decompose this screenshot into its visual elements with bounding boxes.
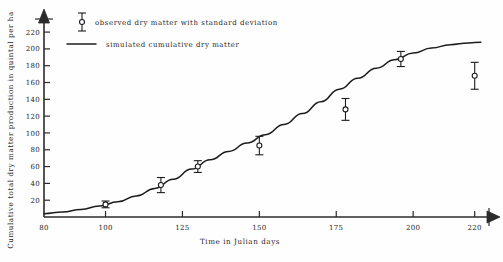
open-circle-marker-icon [257,143,262,148]
x-tick-label: 100 [98,224,112,232]
open-circle-marker-icon [195,164,200,169]
x-tick-label: 220 [468,224,482,232]
legend-entry-observed: observed dry matter with standard deviat… [78,13,278,31]
observed-datapoint [471,62,479,89]
y-axis-arrow-icon [39,9,50,23]
y-tick-label: 220 [26,29,40,37]
x-tick-label: 125 [175,224,189,232]
axes-group [35,9,500,226]
x-tick-label: 80 [39,224,49,232]
legend-group: observed dry matter with standard deviat… [67,13,278,49]
x-tick-label: 175 [329,224,343,232]
legend-label-observed: observed dry matter with standard deviat… [95,19,278,27]
observed-points-group [102,51,479,207]
open-circle-marker-icon [158,183,163,188]
x-tick-label: 150 [252,224,266,232]
open-circle-marker-icon [103,202,108,207]
y-tick-label: 160 [26,79,40,87]
y-tick-label: 180 [26,62,40,70]
open-circle-marker-icon [472,73,477,78]
figure-root: 2040608010012014016018020022080100125150… [0,0,503,262]
open-circle-marker-icon [343,107,348,112]
simulated-curve-path [44,42,481,213]
simulated-curve-group [44,42,481,213]
y-tick-label: 20 [30,197,40,205]
y-tick-label: 140 [26,96,40,104]
legend-label-simulated: simulated cumulative dry matter [106,41,239,49]
observed-datapoint [157,177,165,192]
observed-datapoint [194,161,202,173]
observed-datapoint [397,51,405,66]
y-axis-title: Cumulative total dry matter production i… [6,11,15,249]
open-circle-marker-icon [398,56,403,61]
y-tick-label: 200 [26,45,40,53]
chart-canvas: 2040608010012014016018020022080100125150… [0,0,503,262]
x-axis-title: Time in Julian days [200,237,280,246]
legend-entry-simulated: simulated cumulative dry matter [67,41,239,49]
observed-datapoint [341,98,349,120]
y-tick-label: 60 [30,163,40,171]
x-tick-label: 200 [406,224,420,232]
y-tick-label: 120 [26,113,40,121]
legend-open-circle-marker-icon [80,20,85,25]
y-tick-label: 100 [26,130,40,138]
ticks-group [44,32,475,217]
tick-labels-group: 2040608010012014016018020022080100125150… [26,29,482,232]
y-tick-label: 40 [30,180,40,188]
observed-datapoint [102,201,110,208]
y-tick-label: 80 [30,146,40,154]
